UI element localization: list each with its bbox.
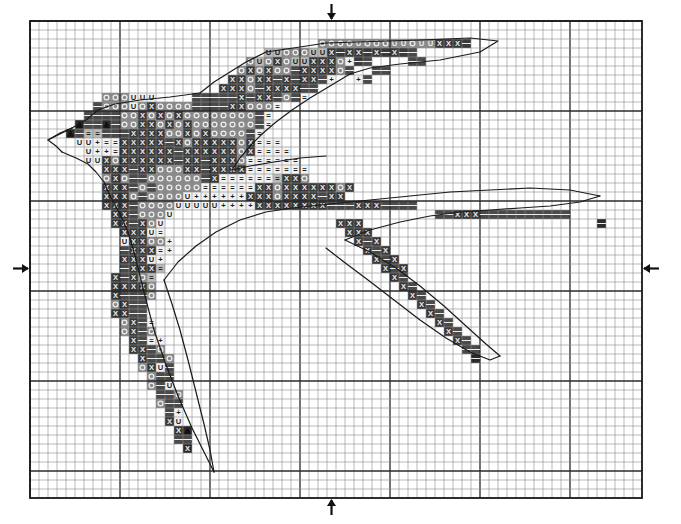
symbol-glyph: =	[230, 174, 235, 183]
symbol-glyph: X	[338, 219, 343, 228]
symbol-glyph: X	[365, 201, 370, 210]
stitch-cell	[183, 174, 192, 183]
symbol-glyph: =	[266, 111, 271, 120]
symbol-glyph: —	[489, 209, 498, 219]
symbol-glyph: —	[138, 173, 147, 183]
symbol-glyph: U	[275, 48, 281, 57]
stitch-cell	[291, 48, 300, 57]
symbol-glyph: X	[266, 75, 271, 84]
stitch-cell	[156, 183, 165, 192]
symbol-glyph: X	[113, 291, 118, 300]
symbol-glyph: X	[257, 192, 262, 201]
symbol-glyph: X	[149, 147, 154, 156]
symbol-glyph: —	[147, 353, 156, 363]
stitch-cell	[111, 93, 120, 102]
stitch-cell	[165, 111, 174, 120]
stitch-cell	[183, 183, 192, 192]
stitch-cell	[165, 192, 174, 201]
symbol-glyph: =	[221, 183, 226, 192]
symbol-glyph: —	[273, 92, 282, 102]
symbol-glyph: X	[113, 192, 118, 201]
symbol-glyph: —	[93, 119, 102, 129]
symbol-glyph: X	[311, 57, 316, 66]
symbol-glyph: =	[275, 138, 280, 147]
symbol-glyph: X	[113, 210, 118, 219]
symbol-glyph: —	[291, 74, 300, 84]
stitch-cell	[219, 111, 228, 120]
stitch-cell	[147, 291, 156, 300]
symbol-glyph: —	[147, 182, 156, 192]
symbol-glyph: —	[156, 389, 165, 399]
symbol-glyph: X	[356, 237, 361, 246]
symbol-glyph: =	[275, 156, 280, 165]
symbol-glyph: X	[266, 201, 271, 210]
symbol-glyph: X	[122, 192, 127, 201]
stitch-cell	[147, 192, 156, 201]
symbol-glyph: X	[284, 84, 289, 93]
stitch-cell	[174, 192, 183, 201]
stitch-cell	[264, 102, 273, 111]
symbol-glyph: X	[140, 147, 145, 156]
symbol-glyph: X	[347, 183, 352, 192]
stitch-cell	[120, 318, 129, 327]
symbol-glyph: X	[149, 165, 154, 174]
symbol-glyph: X	[149, 156, 154, 165]
symbol-glyph: +	[167, 237, 172, 246]
stitch-cell	[237, 138, 246, 147]
stitch-cell	[156, 210, 165, 219]
symbol-glyph: X	[158, 156, 163, 165]
symbol-glyph: U	[302, 57, 308, 66]
symbol-glyph: —	[192, 101, 201, 111]
symbol-glyph: =	[266, 147, 271, 156]
symbol-glyph: X	[167, 147, 172, 156]
symbol-glyph: X	[374, 201, 379, 210]
symbol-glyph: +	[194, 192, 199, 201]
symbol-glyph: X	[230, 156, 235, 165]
symbol-glyph: —	[309, 83, 318, 93]
symbol-glyph: X	[302, 183, 307, 192]
symbol-glyph: —	[291, 92, 300, 102]
stitch-cell	[147, 219, 156, 228]
symbol-glyph: —	[219, 101, 228, 111]
symbol-glyph: X	[239, 165, 244, 174]
stitch-cell	[165, 165, 174, 174]
symbol-glyph: —	[120, 272, 129, 282]
symbol-glyph: =	[284, 165, 289, 174]
symbol-glyph: —	[516, 209, 525, 219]
symbol-glyph: =	[230, 183, 235, 192]
symbol-glyph: U	[95, 156, 101, 165]
symbol-glyph: —	[399, 200, 408, 210]
stitch-cell	[228, 120, 237, 129]
symbol-glyph: —	[102, 110, 111, 120]
stitch-cell	[156, 201, 165, 210]
symbol-glyph: X	[347, 48, 352, 57]
symbol-glyph: —	[408, 200, 417, 210]
stitch-cell	[138, 363, 147, 372]
symbol-glyph: X	[203, 129, 208, 138]
symbol-glyph: X	[212, 174, 217, 183]
stitch-cell	[183, 102, 192, 111]
symbol-glyph: X	[284, 174, 289, 183]
symbol-glyph: X	[140, 354, 145, 363]
stitch-cell	[183, 111, 192, 120]
stitch-cell	[192, 174, 201, 183]
symbol-glyph: X	[131, 147, 136, 156]
symbol-glyph: —	[498, 209, 507, 219]
symbol-glyph: —	[138, 191, 147, 201]
symbol-glyph: X	[374, 48, 379, 57]
symbol-glyph: —	[399, 47, 408, 57]
stitch-cell	[120, 111, 129, 120]
stitch-cell	[201, 120, 210, 129]
stitch-cell	[174, 174, 183, 183]
symbol-glyph: X	[122, 165, 127, 174]
stitch-cell	[165, 174, 174, 183]
stitch-cell	[255, 66, 264, 75]
symbol-glyph: X	[437, 39, 442, 48]
symbol-glyph: X	[122, 309, 127, 318]
symbol-glyph: —	[390, 200, 399, 210]
symbol-glyph: —	[525, 209, 534, 219]
symbol-glyph: X	[230, 147, 235, 156]
symbol-glyph: X	[149, 246, 154, 255]
symbol-glyph: X	[122, 147, 127, 156]
symbol-glyph: U	[257, 57, 263, 66]
